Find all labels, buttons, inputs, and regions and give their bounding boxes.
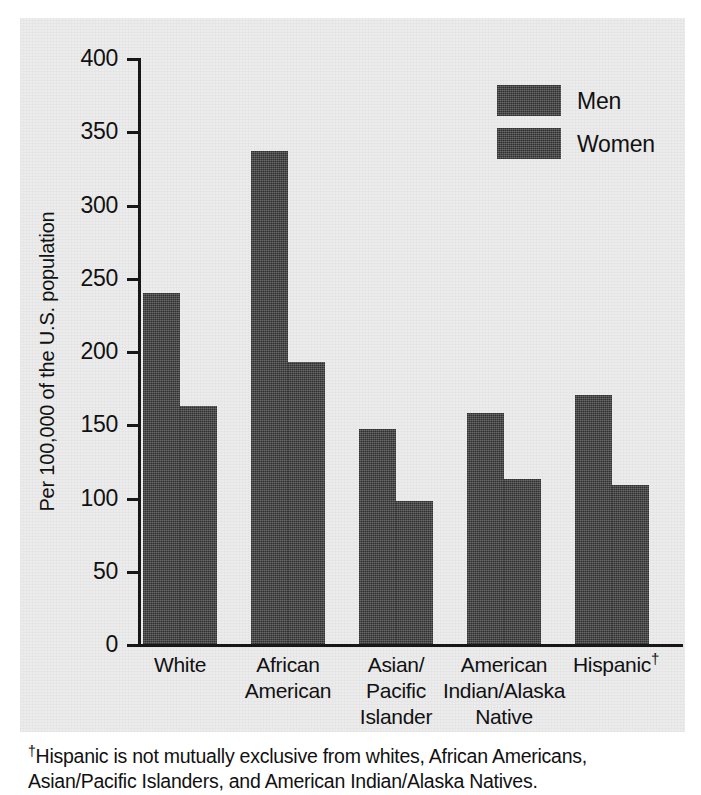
y-tick-200 <box>127 351 138 354</box>
legend-label-women: Women <box>577 133 655 156</box>
x-category-label-hispanic: Hispanic† <box>551 652 681 678</box>
y-tick-50 <box>127 571 138 574</box>
bar-white-men <box>143 293 180 644</box>
x-category-label-african-american-line1: African <box>228 652 348 678</box>
bar-asian-pacific-islander-men <box>359 429 396 644</box>
y-tick-250 <box>127 278 138 281</box>
y-axis-line <box>138 58 141 647</box>
y-tick-100 <box>127 498 138 501</box>
legend-swatch-men <box>497 85 561 116</box>
y-tick-label-350: 350 <box>38 120 118 143</box>
bar-asian-pacific-islander-women <box>396 501 433 644</box>
x-category-label-hispanic-line1: Hispanic† <box>551 652 681 678</box>
y-tick-label-100: 100 <box>38 487 118 510</box>
x-category-label-american-indian-alaska-native-line2: Indian/Alaska <box>423 678 585 704</box>
x-category-label-american-indian-alaska-native-line3: Native <box>423 704 585 730</box>
x-category-label-white: White <box>120 652 240 678</box>
footnote-dagger-icon: † <box>28 743 36 759</box>
footnote-marker-hispanic: † <box>651 650 659 667</box>
bar-chart: Per 100,000 of the U.S. population 400 3… <box>0 0 701 795</box>
y-tick-label-250: 250 <box>38 267 118 290</box>
legend-swatch-women <box>497 128 561 159</box>
chart-footnote: †Hispanic is not mutually exclusive from… <box>28 744 688 794</box>
footnote-text: Hispanic is not mutually exclusive from … <box>28 745 587 792</box>
x-category-label-african-american: African American <box>228 652 348 704</box>
y-tick-label-400: 400 <box>38 47 118 70</box>
y-tick-label-0: 0 <box>38 633 118 656</box>
x-category-label-white-line1: White <box>120 652 240 678</box>
x-axis-line <box>138 644 683 647</box>
y-tick-0 <box>127 644 138 647</box>
y-tick-label-200: 200 <box>38 340 118 363</box>
chart-page: Per 100,000 of the U.S. population 400 3… <box>0 0 701 795</box>
legend-label-men: Men <box>577 90 621 113</box>
y-tick-label-150: 150 <box>38 413 118 436</box>
bar-hispanic-women <box>612 485 649 644</box>
bar-hispanic-men <box>575 395 612 644</box>
y-tick-350 <box>127 131 138 134</box>
bar-african-american-men <box>251 151 288 644</box>
bar-american-indian-alaska-native-men <box>467 413 504 644</box>
y-tick-400 <box>127 58 138 61</box>
x-category-label-african-american-line2: American <box>228 678 348 704</box>
bar-american-indian-alaska-native-women <box>504 479 541 644</box>
y-tick-300 <box>127 205 138 208</box>
y-tick-label-300: 300 <box>38 194 118 217</box>
y-tick-label-50: 50 <box>38 560 118 583</box>
y-tick-150 <box>127 424 138 427</box>
bar-white-women <box>180 406 217 644</box>
bar-african-american-women <box>288 362 325 644</box>
x-category-label-hispanic-text: Hispanic <box>573 653 651 676</box>
